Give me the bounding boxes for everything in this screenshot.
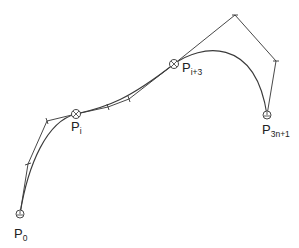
knot-p0 [16,210,24,218]
control-polygon [20,15,276,214]
knot-pi [72,110,81,119]
knot-pi3 [170,60,179,69]
control-point-ticks [25,15,279,165]
spline-curve [20,51,267,214]
knot-p3n1 [263,111,271,119]
label-pi: Pi [71,119,82,136]
bezier-diagram: P0 Pi Pi+3 P3n+1 [0,0,299,248]
label-pi3: Pi+3 [182,60,203,77]
label-p3n1: P3n+1 [262,122,290,139]
label-p0: P0 [14,226,28,243]
